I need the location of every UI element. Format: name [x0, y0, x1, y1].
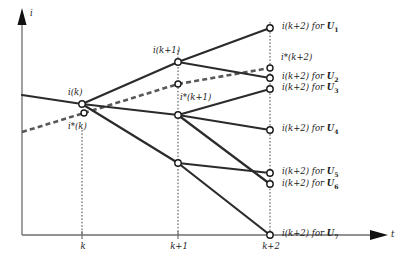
- node-u1: [267, 25, 273, 31]
- leaf-label-index: 3: [334, 87, 338, 94]
- leaf-label-text: i(k+2) for: [282, 178, 327, 188]
- node-u5: [267, 170, 273, 176]
- node-u7: [267, 232, 273, 238]
- node-i-star-k: [81, 110, 87, 116]
- leaf-label-text: i(k+2) for: [282, 228, 327, 238]
- leaf-label-u6: i(k+2) for U6: [282, 179, 339, 190]
- leaf-label-u5: i(k+2) for U5: [282, 167, 339, 178]
- x-tick-label-1: k+1: [169, 242, 189, 251]
- leaf-label-u4: i(k+2) for U4: [282, 124, 339, 135]
- i-k-label: i(k): [68, 88, 83, 97]
- x-axis-label: t: [391, 230, 394, 239]
- i-k1-label: i(k+1): [153, 46, 180, 55]
- edge-k1low-to-u5: [178, 163, 270, 173]
- leaf-label-index: 5: [334, 171, 338, 178]
- x-axis-arrow-icon: [370, 230, 388, 240]
- leaf-label-u1: i(k+2) for U1: [282, 22, 339, 33]
- leaf-label-index: 6: [334, 183, 338, 190]
- node-i-k: [79, 101, 85, 107]
- node-u6: [267, 181, 273, 187]
- leaf-label-u7: i(k+2) for U7: [282, 229, 339, 240]
- leaf-label-text: i(k+2) for: [282, 123, 327, 133]
- node-u3: [267, 86, 273, 92]
- node-i-star-k1: [175, 81, 181, 87]
- i-star-k1-label: i*(k+1): [180, 93, 211, 102]
- solid-edges-group: [22, 28, 270, 235]
- node-k1-mid: [175, 112, 181, 118]
- i-star-k-label: i*(k): [68, 122, 87, 131]
- leaf-label-index: 2: [334, 76, 338, 83]
- node-u2: [267, 75, 273, 81]
- leaf-label-text: i(k+2) for: [282, 71, 327, 81]
- node-u4: [267, 127, 273, 133]
- x-tick-label-2: k+2: [261, 242, 281, 251]
- tree-diagram: i(k)i*(k)i(k+1)i*(k+1)i*(k+2)i(k+2) for …: [0, 0, 404, 259]
- edge-k1top-to-u2: [178, 62, 270, 78]
- y-axis-arrow-icon: [18, 8, 27, 25]
- edge-ik-to-k1top: [82, 62, 178, 104]
- diagram-canvas: [0, 0, 404, 259]
- node-k1-low: [175, 160, 181, 166]
- node-i-star-k2: [267, 65, 273, 71]
- leaf-label-u3: i(k+2) for U3: [282, 83, 339, 94]
- edge-k1mid-to-u4: [178, 115, 270, 130]
- y-axis-label: i: [30, 9, 33, 18]
- leaf-label-index: 7: [334, 233, 338, 240]
- edge-k1top-to-u1: [178, 28, 270, 62]
- i-star-k2-label: i*(k+2): [281, 53, 312, 62]
- leaf-label-text: i(k+2) for: [282, 166, 327, 176]
- leaf-label-index: 4: [334, 128, 338, 135]
- x-tick-label-0: k: [73, 242, 93, 251]
- leaf-label-text: i(k+2) for: [282, 82, 327, 92]
- nodes-group: [79, 25, 273, 238]
- node-i-k1-top: [175, 59, 181, 65]
- leaf-label-index: 1: [334, 26, 338, 33]
- leaf-label-text: i(k+2) for: [282, 21, 327, 31]
